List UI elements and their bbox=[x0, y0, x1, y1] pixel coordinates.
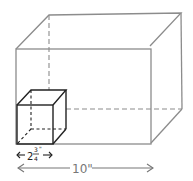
small-cube-denominator: 4 bbox=[34, 155, 38, 162]
large-dimension-arrow: 10" bbox=[18, 162, 153, 176]
small-cube bbox=[17, 90, 66, 144]
large-box bbox=[16, 13, 182, 144]
small-cube-whole: 2 bbox=[27, 151, 33, 162]
large-box-width-label: 10" bbox=[72, 162, 93, 176]
box-diagram: 2 3 4 " 10" bbox=[0, 0, 193, 181]
small-cube-inch-mark: " bbox=[39, 145, 42, 152]
small-cube-numerator: 3 bbox=[34, 146, 38, 153]
small-dimension-arrow: 2 3 4 " bbox=[17, 145, 52, 162]
